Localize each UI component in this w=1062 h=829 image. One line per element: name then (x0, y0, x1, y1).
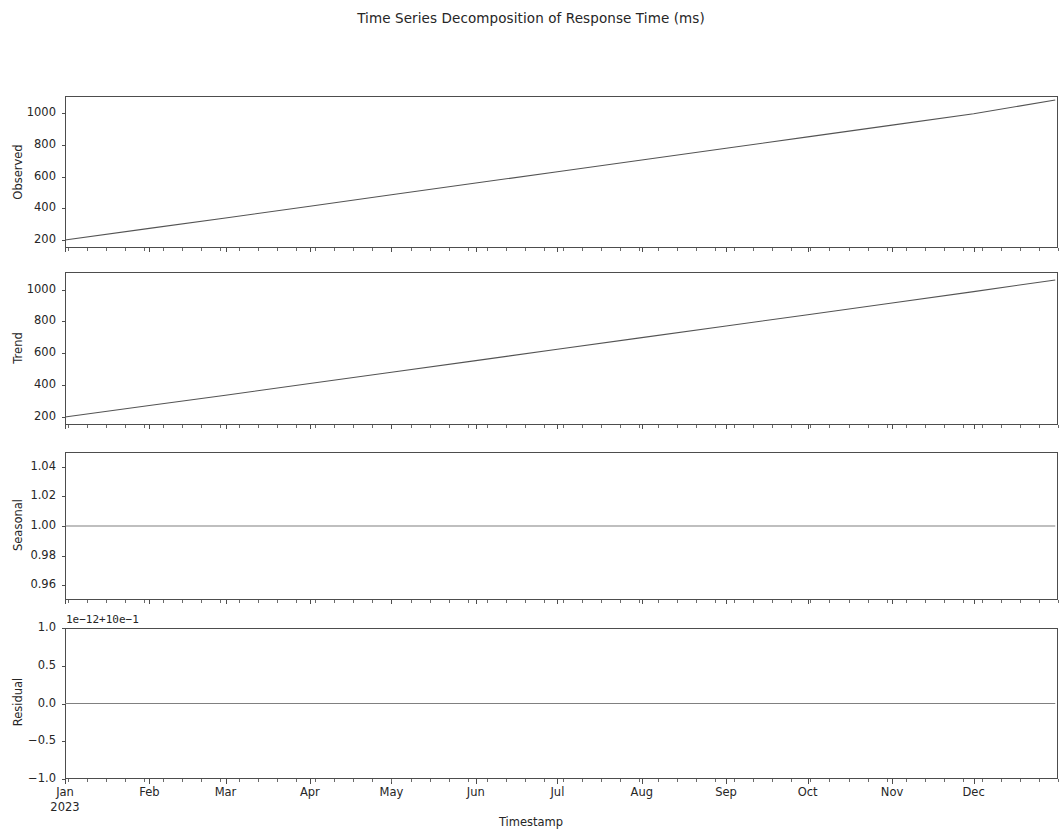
ytick-label-residual: 1.0 (0, 620, 56, 634)
xtick-mark-minor (68, 248, 69, 251)
xtick-mark-minor (753, 600, 754, 603)
xtick-label-nov: Nov (852, 785, 932, 799)
xtick-mark-minor (925, 600, 926, 603)
residual-offset-text: 1e−12+10e−1 (66, 613, 139, 626)
xtick-mark-minor (810, 779, 811, 782)
xtick-mark-minor (639, 425, 640, 428)
ytick-label-trend: 600 (0, 345, 56, 359)
xtick-mark-minor (277, 425, 278, 428)
xtick-mark-minor (849, 600, 850, 603)
xtick-mark-minor (220, 779, 221, 782)
xtick-mark-major (557, 779, 558, 784)
xtick-mark-minor (563, 425, 564, 428)
ytick-label-seasonal: 0.96 (0, 577, 56, 591)
xtick-mark-minor (87, 779, 88, 782)
ytick-mark (62, 666, 66, 667)
xtick-mark-minor (315, 779, 316, 782)
figure-title: Time Series Decomposition of Response Ti… (0, 10, 1062, 26)
xtick-mark-minor (1001, 600, 1002, 603)
xtick-mark-major (974, 248, 975, 252)
xtick-mark-minor (372, 425, 373, 428)
xtick-year-sublabel: 2023 (25, 800, 105, 814)
xtick-label-sep: Sep (686, 785, 766, 799)
xtick-mark-minor (430, 248, 431, 251)
xtick-mark-major (726, 600, 727, 604)
xtick-mark-minor (582, 779, 583, 782)
xtick-mark-minor (144, 779, 145, 782)
xtick-mark-minor (658, 425, 659, 428)
xtick-mark-minor (639, 600, 640, 603)
xtick-mark-minor (506, 425, 507, 428)
xtick-mark-minor (125, 600, 126, 603)
xtick-mark-minor (715, 248, 716, 251)
ytick-label-trend: 800 (0, 313, 56, 327)
xtick-mark-minor (525, 248, 526, 251)
xtick-mark-minor (906, 425, 907, 428)
xtick-mark-minor (658, 779, 659, 782)
ytick-label-observed: 800 (0, 137, 56, 151)
xtick-mark-minor (715, 425, 716, 428)
xtick-mark-major (65, 779, 66, 784)
xtick-mark-major (974, 779, 975, 784)
ytick-label-residual: −0.5 (0, 733, 56, 747)
xtick-mark-minor (925, 779, 926, 782)
xtick-mark-minor (791, 425, 792, 428)
xtick-mark-minor (544, 248, 545, 251)
xtick-mark-minor (372, 248, 373, 251)
xtick-mark-minor (563, 248, 564, 251)
xtick-mark-minor (487, 425, 488, 428)
xtick-mark-minor (1058, 779, 1059, 782)
xtick-mark-major (476, 600, 477, 604)
xtick-mark-minor (430, 600, 431, 603)
ytick-label-seasonal: 1.04 (0, 459, 56, 473)
xtick-mark-minor (182, 248, 183, 251)
xtick-mark-minor (353, 248, 354, 251)
xtick-mark-minor (201, 600, 202, 603)
xtick-mark-minor (353, 600, 354, 603)
xtick-mark-minor (963, 600, 964, 603)
xtick-mark-major (149, 425, 150, 429)
xtick-mark-minor (334, 425, 335, 428)
xtick-mark-minor (258, 600, 259, 603)
xtick-mark-minor (753, 425, 754, 428)
xtick-mark-minor (601, 779, 602, 782)
ytick-mark (62, 385, 66, 386)
xtick-mark-minor (353, 779, 354, 782)
xtick-mark-minor (696, 600, 697, 603)
xtick-mark-minor (601, 248, 602, 251)
xtick-mark-major (149, 248, 150, 252)
xtick-mark-minor (296, 248, 297, 251)
xtick-mark-major (476, 779, 477, 784)
xtick-mark-minor (468, 425, 469, 428)
xtick-label-oct: Oct (768, 785, 848, 799)
xtick-mark-minor (906, 779, 907, 782)
xtick-mark-major (642, 248, 643, 252)
xtick-mark-major (974, 600, 975, 604)
xtick-mark-minor (887, 779, 888, 782)
xtick-mark-minor (277, 600, 278, 603)
xtick-mark-minor (239, 425, 240, 428)
xtick-mark-minor (449, 600, 450, 603)
xtick-mark-minor (411, 425, 412, 428)
xtick-mark-minor (734, 248, 735, 251)
xtick-mark-minor (639, 248, 640, 251)
xtick-mark-minor (772, 600, 773, 603)
ytick-mark (62, 353, 66, 354)
xtick-mark-minor (696, 248, 697, 251)
xtick-mark-minor (849, 248, 850, 251)
xtick-mark-minor (106, 248, 107, 251)
xtick-mark-minor (144, 425, 145, 428)
ytick-mark (62, 741, 66, 742)
xtick-mark-minor (487, 600, 488, 603)
xtick-mark-minor (315, 248, 316, 251)
ytick-mark (62, 177, 66, 178)
xtick-mark-minor (772, 248, 773, 251)
xtick-label-aug: Aug (602, 785, 682, 799)
xtick-mark-major (808, 248, 809, 252)
xtick-mark-minor (887, 600, 888, 603)
xtick-label-jun: Jun (436, 785, 516, 799)
xtick-mark-minor (182, 600, 183, 603)
xtick-mark-minor (982, 779, 983, 782)
xtick-mark-minor (791, 248, 792, 251)
xtick-mark-minor (430, 779, 431, 782)
